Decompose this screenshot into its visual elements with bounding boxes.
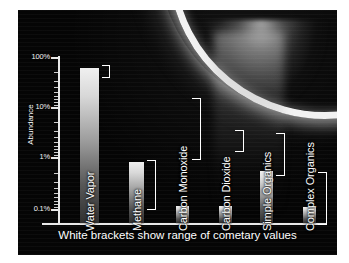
range-bracket: [318, 172, 327, 225]
y-tick-major: [51, 157, 58, 159]
range-bracket: [102, 65, 110, 78]
y-tick-minor: [54, 131, 58, 132]
figure-panel: Abundance 100%10%1%0.1% Water VaporMetha…: [18, 10, 337, 255]
bar-label: Carbon Dioxide: [220, 157, 232, 231]
y-tick-minor: [54, 197, 58, 198]
y-tick-minor: [54, 92, 58, 93]
y-tick-minor: [54, 204, 58, 205]
y-tick-minor: [54, 146, 58, 147]
y-tick-minor: [54, 155, 58, 156]
y-tick-minor: [54, 193, 58, 194]
y-tick-minor: [54, 207, 58, 208]
y-tick-minor: [54, 105, 58, 106]
range-bracket: [147, 160, 156, 210]
bar-label: Simple Organics: [261, 152, 273, 231]
y-tick-major: [51, 57, 58, 59]
y-tick-label: 0.1%: [34, 204, 50, 213]
figure-caption: White brackets show range of cometary va…: [18, 229, 337, 241]
range-bracket: [192, 98, 201, 160]
y-tick-minor: [54, 87, 58, 88]
y-tick-minor: [54, 142, 58, 143]
bar-label: Water Vapor: [84, 172, 96, 231]
y-tick-minor: [54, 173, 58, 174]
bar-label: Carbon Monoxide: [177, 146, 189, 231]
y-tick-minor: [54, 182, 58, 183]
y-tick-minor: [54, 152, 58, 153]
y-tick-minor: [54, 137, 58, 138]
y-tick-minor: [54, 201, 58, 202]
plot-area: Abundance 100%10%1%0.1% Water VaporMetha…: [18, 10, 337, 255]
bar-label: Methane: [131, 189, 143, 231]
y-tick-minor: [54, 102, 58, 103]
y-axis-line: [58, 56, 60, 224]
y-tick-major: [51, 107, 58, 109]
y-tick-minor: [54, 99, 58, 100]
y-tick-minor: [54, 188, 58, 189]
y-tick-minor: [54, 149, 58, 150]
y-tick-minor: [54, 96, 58, 97]
y-tick-minor: [54, 122, 58, 123]
y-tick-minor: [54, 72, 58, 73]
y-tick-label: 1%: [40, 152, 50, 161]
y-tick-label: 10%: [36, 102, 50, 111]
range-bracket: [235, 130, 244, 152]
range-bracket: [276, 133, 285, 176]
y-tick-minor: [54, 81, 58, 82]
bar-label: Complex Organics: [304, 142, 316, 231]
y-tick-major: [51, 209, 58, 211]
y-tick-label: 100%: [32, 52, 50, 61]
y-axis-title: Abundance: [26, 95, 35, 155]
